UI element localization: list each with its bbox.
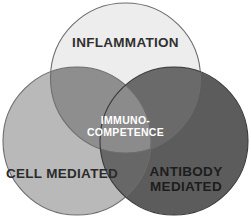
label-inflammation: INFLAMMATION [72,35,179,50]
label-immunocompetence-line1: IMMUNO- [101,114,151,126]
label-antibody-mediated-line1: ANTIBODY [150,164,223,179]
label-antibody-mediated-line2: MEDIATED [150,179,222,194]
venn-diagram: INFLAMMATION CELL MEDIATED ANTIBODY MEDI… [0,0,251,224]
label-immunocompetence-line2: COMPETENCE [87,126,164,138]
venn-diagram-canvas: INFLAMMATION CELL MEDIATED ANTIBODY MEDI… [0,0,251,224]
label-cell-mediated: CELL MEDIATED [6,166,118,181]
